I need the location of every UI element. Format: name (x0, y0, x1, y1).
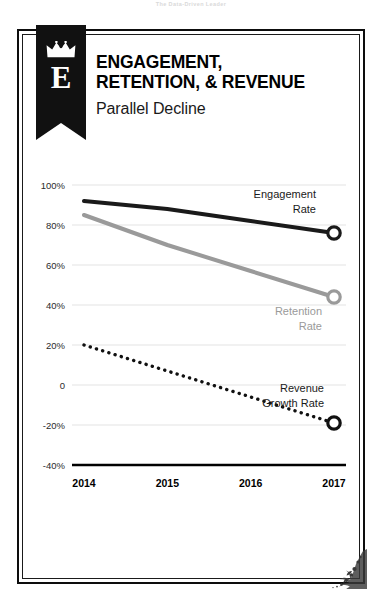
chart-y-tick-label: 20% (46, 340, 66, 351)
chart-endpoint-marker (328, 417, 340, 429)
chart-y-tick-label: 100% (41, 180, 66, 191)
line-chart: 100%80%60%40%20%0-20%-40% EngagementRate… (24, 170, 354, 500)
page-title-line-2: RETENTION, & REVENUE (96, 72, 336, 92)
chart-y-tick-label: 80% (46, 220, 66, 231)
chart-series-label: Revenue (280, 382, 324, 394)
floral-corner-ornament (319, 549, 367, 589)
chart-x-tick-label: 2016 (239, 477, 263, 489)
chart-series-label: Growth Rate (262, 397, 324, 409)
chart-y-axis-labels: 100%80%60%40%20%0-20%-40% (41, 180, 66, 471)
chart-endpoint-marker (328, 291, 340, 303)
chart-series-label: Rate (299, 320, 322, 332)
chart-y-tick-label: -20% (43, 420, 66, 431)
brand-letter: E (36, 62, 86, 93)
watermark-text: The Data-Driven Leader (0, 1, 382, 7)
chart-canvas: 100%80%60%40%20%0-20%-40% EngagementRate… (24, 170, 354, 500)
chart-endpoint-marker (328, 227, 340, 239)
infographic-card: The Data-Driven Leader E ENGAGEMENT, RET… (0, 0, 382, 615)
chart-y-tick-label: 60% (46, 260, 66, 271)
chart-y-tick-label: 0 (60, 380, 65, 391)
crown-icon (46, 41, 76, 58)
chart-y-tick-label: 40% (46, 300, 66, 311)
chart-x-tick-label: 2017 (322, 477, 346, 489)
chart-series-label: Rate (293, 203, 316, 215)
chart-x-tick-label: 2015 (156, 477, 180, 489)
brand-banner-logo: E (36, 25, 86, 123)
chart-x-axis-labels: 2014201520162017 (72, 477, 346, 489)
chart-x-tick-label: 2014 (72, 477, 96, 489)
header-block: ENGAGEMENT, RETENTION, & REVENUE Paralle… (96, 52, 336, 119)
chart-series-label: Retention (275, 305, 322, 317)
chart-y-tick-label: -40% (43, 460, 66, 471)
chart-series-label: Engagement (254, 188, 316, 200)
page-subtitle: Parallel Decline (96, 99, 336, 119)
page-title-line-1: ENGAGEMENT, (96, 52, 336, 72)
